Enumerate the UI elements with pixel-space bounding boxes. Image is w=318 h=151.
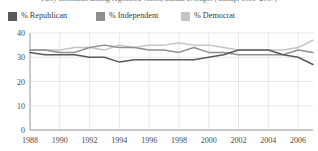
x-tick-label: 2004 [260, 136, 276, 145]
data-series [30, 40, 313, 64]
legend-label-democrat: % Democrat [194, 12, 235, 20]
y-axis-tick-labels: 010203040 [17, 29, 25, 135]
x-axis-tick-labels: 1988199019921994199619982000200220042006 [22, 136, 306, 145]
legend-swatch-democrat [181, 12, 190, 21]
y-tick-label: 20 [17, 78, 25, 87]
chart-legend: % Republican % Independent % Democrat [0, 9, 318, 23]
x-tick-label: 1994 [111, 136, 127, 145]
line-chart-svg: 010203040 198819901992199419961998200020… [0, 23, 318, 151]
legend-swatch-independent [96, 12, 105, 21]
y-tick-label: 0 [21, 126, 25, 135]
chart-title-text: Party affiliation among registered voter… [0, 0, 318, 3]
y-tick-label: 10 [17, 102, 25, 111]
chart-title-cutoff: Party affiliation among registered voter… [0, 0, 318, 7]
x-tick-label: 2002 [231, 136, 247, 145]
x-tick-label: 1988 [22, 136, 38, 145]
legend-item-democrat: % Democrat [181, 9, 235, 23]
x-tick-label: 2006 [290, 136, 306, 145]
plot-area: 010203040 198819901992199419961998200020… [0, 23, 318, 151]
series-line-democrat [30, 40, 313, 50]
legend-swatch-republican [8, 12, 17, 21]
x-tick-label: 1998 [171, 136, 187, 145]
legend-label-republican: % Republican [21, 12, 67, 20]
x-tick-label: 1990 [52, 136, 68, 145]
chart-figure: Party affiliation among registered voter… [0, 0, 318, 151]
legend-item-independent: % Independent [96, 9, 158, 23]
x-tick-label: 2000 [201, 136, 217, 145]
x-tick-label: 1992 [82, 136, 98, 145]
legend-item-republican: % Republican [8, 9, 67, 23]
legend-label-independent: % Independent [109, 12, 158, 20]
y-tick-label: 40 [17, 29, 25, 38]
x-tick-label: 1996 [141, 136, 157, 145]
y-tick-label: 30 [17, 53, 25, 62]
